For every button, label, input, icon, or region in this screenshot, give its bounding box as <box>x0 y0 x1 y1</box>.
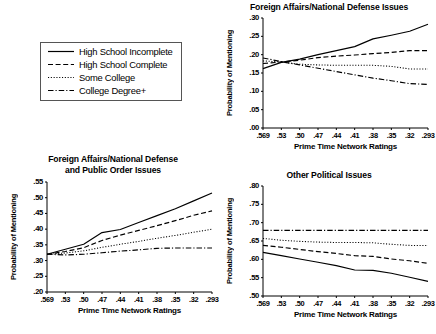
chart-title: Foreign Affairs/National Defense Issues <box>222 2 436 13</box>
chart-title: Foreign Affairs/National Defense and Pub… <box>6 154 220 175</box>
chart-panel-other-political-issues: Other Political Issues Probability of Me… <box>222 170 436 332</box>
y-axis-tick-label: .15 <box>237 68 259 77</box>
dash-dot-line-icon <box>47 85 75 96</box>
x-axis-tick-label: .293 <box>414 131 436 140</box>
y-axis-tick-label: .55 <box>237 273 259 282</box>
y-axis-label: Probability of Mentioning <box>225 16 234 130</box>
dotted-line-icon <box>47 72 75 83</box>
y-axis-tick-label: .45 <box>21 208 43 217</box>
series-line <box>47 248 212 255</box>
plot-area <box>261 184 430 298</box>
axis-spine <box>47 182 212 292</box>
y-axis-tick-label: .70 <box>237 218 259 227</box>
y-axis-tick-label: .30 <box>237 13 259 22</box>
y-axis-tick-label: .25 <box>21 271 43 280</box>
series-line <box>263 24 428 68</box>
y-axis-tick-label: .75 <box>237 199 259 208</box>
y-axis-label: Probability of Mentioning <box>225 184 234 298</box>
legend-item-label: High School Incomplete <box>79 46 173 57</box>
y-axis-tick-label: .10 <box>237 86 259 95</box>
legend-item-label: College Degree+ <box>79 85 146 96</box>
plot-area <box>45 180 214 294</box>
y-axis-tick-label: .05 <box>237 105 259 114</box>
series-line <box>263 245 428 263</box>
x-axis-label: Prime Time Network Ratings <box>47 306 212 315</box>
series-line <box>263 51 428 64</box>
y-axis-tick-label: .20 <box>237 50 259 59</box>
legend-item-label: High School Complete <box>79 59 167 70</box>
legend-item: College Degree+ <box>47 84 146 97</box>
legend-item: Some College <box>47 71 135 84</box>
x-axis-label: Prime Time Network Ratings <box>263 142 428 151</box>
legend-item-label: Some College <box>79 72 135 83</box>
y-axis-label: Probability of Mentioning <box>9 180 18 294</box>
x-axis-label: Prime Time Network Ratings <box>263 310 428 319</box>
axis-spine <box>263 186 428 296</box>
dashed-line-icon <box>47 59 75 70</box>
chart-panel-foreign-affairs-national-defense: Foreign Affairs/National Defense Issues … <box>222 2 436 162</box>
series-line <box>263 61 428 69</box>
y-axis-tick-label: .40 <box>21 224 43 233</box>
y-axis-tick-label: .60 <box>237 254 259 263</box>
legend-item: High School Incomplete <box>47 45 173 58</box>
axis-spine <box>263 18 428 128</box>
chart-panel-foreign-affairs-public-order: Foreign Affairs/National Defense and Pub… <box>6 154 220 332</box>
series-line <box>47 193 212 254</box>
y-axis-tick-label: .55 <box>21 177 43 186</box>
y-axis-tick-label: .35 <box>21 240 43 249</box>
x-axis-tick-label: .293 <box>414 299 436 308</box>
chart-title: Other Political Issues <box>222 170 436 181</box>
y-axis-tick-label: .50 <box>21 193 43 202</box>
solid-line-icon <box>47 46 75 57</box>
series-line <box>263 252 428 281</box>
series-line <box>263 238 428 245</box>
legend-item: High School Complete <box>47 58 167 71</box>
chart-legend: High School IncompleteHigh School Comple… <box>40 42 182 101</box>
y-axis-tick-label: .25 <box>237 31 259 40</box>
y-axis-tick-label: .80 <box>237 181 259 190</box>
y-axis-tick-label: .65 <box>237 236 259 245</box>
plot-area <box>261 16 430 130</box>
y-axis-tick-label: .30 <box>21 256 43 265</box>
